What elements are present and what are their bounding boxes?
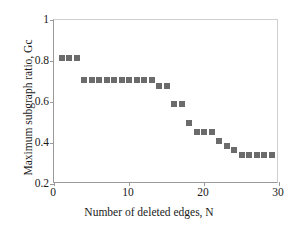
data-point [209,129,215,135]
data-point [156,83,162,89]
data-point [74,55,80,61]
y-tick-label: 1 [5,13,49,25]
data-point [216,138,222,144]
data-point [141,77,147,83]
data-point [164,83,170,89]
chart-figure: Maximum subgraph ratio, Gc 0.20.40.60.81… [0,0,298,230]
data-point [254,152,260,158]
x-tick-mark [204,182,205,186]
y-axis-title: Maximum subgraph ratio, Gc [22,23,35,193]
data-point [149,77,155,83]
x-axis-title: Number of deleted edges, N [0,206,298,219]
x-tick-label: 0 [33,186,73,198]
data-point [66,55,72,61]
data-point [194,129,200,135]
data-point [126,77,132,83]
data-point [134,77,140,83]
y-tick-label: 0.8 [5,54,49,66]
x-tick-mark [279,182,280,186]
plot-area [53,19,278,183]
x-tick-label: 30 [258,186,298,198]
data-point-layer [54,20,277,182]
data-point [269,152,275,158]
data-point [239,152,245,158]
data-point [119,77,125,83]
data-point [81,77,87,83]
data-point [59,55,65,61]
data-point [201,129,207,135]
data-point [104,77,110,83]
data-point [231,147,237,153]
data-point [96,77,102,83]
data-point [186,120,192,126]
x-tick-label: 20 [183,186,223,198]
data-point [224,143,230,149]
x-tick-label: 10 [108,186,148,198]
x-tick-mark [129,182,130,186]
data-point [171,101,177,107]
data-point [179,101,185,107]
y-tick-label: 0.4 [5,136,49,148]
data-point [89,77,95,83]
x-tick-mark [54,182,55,186]
data-point [111,77,117,83]
y-tick-label: 0.6 [5,95,49,107]
data-point [261,152,267,158]
data-point [246,152,252,158]
